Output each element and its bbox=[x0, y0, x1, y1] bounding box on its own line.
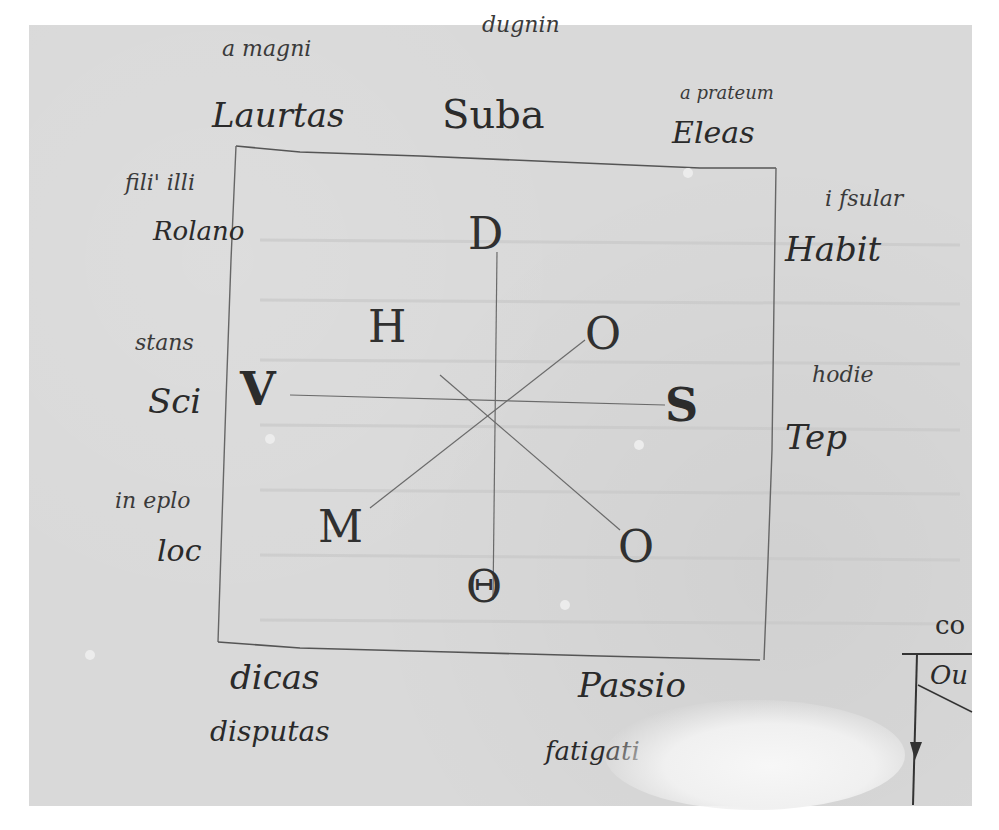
diagram-letter-lower-left: M bbox=[318, 505, 363, 549]
left-gloss-3: in eplo bbox=[115, 490, 191, 512]
right-gloss-2: hodie bbox=[812, 364, 874, 386]
top-right-word: Eleas bbox=[672, 118, 755, 148]
top-left-word: Laurtas bbox=[212, 98, 344, 132]
left-word-1: Rolano bbox=[153, 218, 244, 244]
diagram-letter-bottom: Θ bbox=[466, 565, 502, 609]
parchment-hole bbox=[85, 650, 95, 660]
top-left-gloss: a magni bbox=[222, 38, 311, 60]
right-gloss-1: i fsular bbox=[825, 188, 903, 210]
right-word-1: Habit bbox=[785, 232, 881, 266]
top-center-word: Suba bbox=[442, 94, 545, 134]
left-gloss-2: stans bbox=[135, 332, 194, 354]
diagram-letter-upper-right: O bbox=[585, 312, 621, 356]
bottom-right-word: Passio bbox=[578, 668, 686, 702]
parchment-hole bbox=[265, 434, 275, 444]
left-word-2: Sci bbox=[148, 384, 201, 418]
top-right-gloss: a prateum bbox=[680, 84, 774, 102]
diagram-letter-lower-right: O bbox=[618, 525, 654, 569]
parchment-stain bbox=[605, 700, 905, 810]
right-word-2: Tep bbox=[785, 420, 847, 454]
edge-fragment-boxed-text: Ou bbox=[930, 662, 968, 688]
parchment-hole bbox=[560, 600, 570, 610]
diagram-letter-right: S bbox=[665, 382, 698, 428]
edge-fragment-word: co bbox=[935, 612, 965, 638]
diagram-letter-upper-left: H bbox=[368, 305, 406, 349]
left-word-3: loc bbox=[157, 536, 201, 566]
bottom-left-gloss: disputas bbox=[210, 718, 330, 746]
diagram-letter-left: V bbox=[240, 366, 276, 412]
bottom-left-word: dicas bbox=[230, 660, 319, 694]
diagram-letter-top: D bbox=[468, 212, 503, 256]
top-center-gloss: dugnin bbox=[482, 14, 560, 36]
parchment-hole bbox=[634, 440, 644, 450]
parchment-hole bbox=[683, 168, 693, 178]
left-gloss-1: fili' illi bbox=[125, 172, 195, 194]
